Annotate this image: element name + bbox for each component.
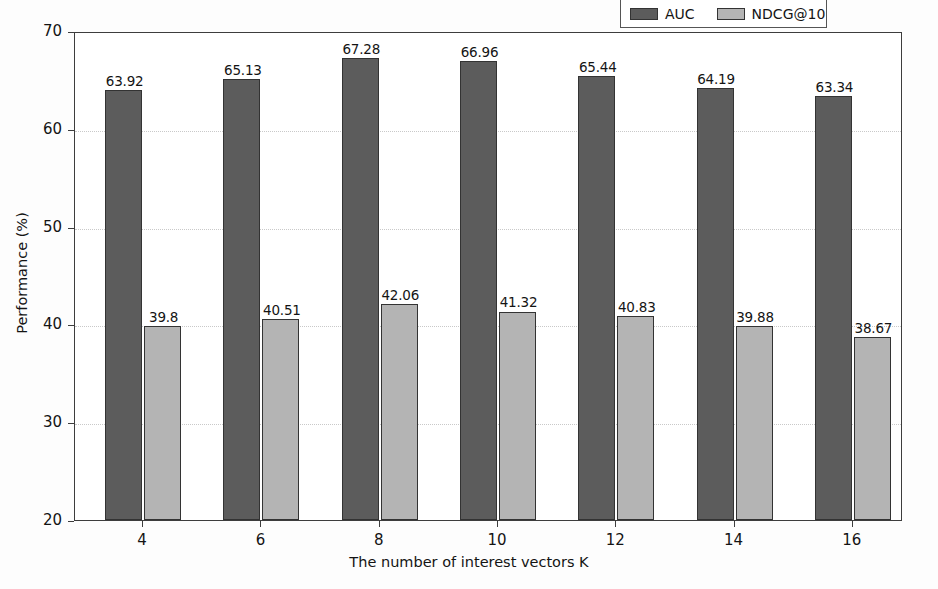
bar-ndcg-10-6 [262,319,299,520]
bar-ndcg-10-8 [381,304,418,520]
x-tick-label: 16 [822,531,882,549]
x-axis-title: The number of interest vectors K [0,554,938,570]
bar-ndcg-10-14 [736,326,773,520]
bar-value-label: 41.32 [497,294,540,310]
legend-label: NDCG@10 [752,6,826,22]
bar-value-label: 67.28 [340,41,383,57]
legend-swatch-icon [630,8,658,20]
bar-ndcg-10-10 [499,312,536,521]
y-tick-label: 70 [6,22,62,40]
bar-auc-8 [342,58,379,520]
legend-swatch-icon [717,8,745,20]
bar-value-label: 40.51 [260,302,303,318]
bar-auc-4 [105,90,142,520]
legend-label: AUC [665,6,695,22]
y-axis-title: Performance (%) [14,123,30,423]
x-tick-label: 10 [467,531,527,549]
bar-value-label: 42.06 [379,287,422,303]
x-tick-label: 14 [704,531,764,549]
bar-ndcg-10-4 [144,326,181,520]
x-tick-mark [260,521,261,527]
bar-value-label: 39.88 [734,309,777,325]
bar-value-label: 65.44 [576,59,619,75]
x-tick-label: 8 [349,531,409,549]
bar-value-label: 40.83 [615,299,658,315]
bar-value-label: 63.92 [103,73,146,89]
bar-auc-10 [460,61,497,520]
chart-legend: AUCNDCG@10 [620,0,827,28]
bar-auc-12 [578,76,615,520]
x-tick-mark [615,521,616,527]
bar-auc-16 [815,96,852,520]
x-tick-mark [379,521,380,527]
x-tick-label: 12 [585,531,645,549]
y-tick-mark [68,521,74,522]
bar-ndcg-10-16 [854,337,891,520]
bar-value-label: 39.8 [142,309,185,325]
x-tick-mark [734,521,735,527]
x-tick-mark [497,521,498,527]
legend-entry-ndcg-10[interactable]: NDCG@10 [717,6,826,22]
plot-area: 63.9239.865.1340.5167.2842.0666.9641.326… [74,32,902,521]
chart-figure: 203040506070 63.9239.865.1340.5167.2842.… [0,0,938,589]
x-tick-mark [852,521,853,527]
bar-ndcg-10-12 [617,316,654,520]
bar-value-label: 38.67 [852,320,895,336]
legend-entry-auc[interactable]: AUC [630,6,695,22]
bar-auc-14 [697,88,734,520]
bar-value-label: 65.13 [221,62,264,78]
x-tick-label: 4 [112,531,172,549]
bar-auc-6 [223,79,260,520]
bar-value-label: 66.96 [458,44,501,60]
x-tick-label: 6 [230,531,290,549]
bar-value-label: 63.34 [813,79,856,95]
y-tick-label: 20 [6,511,62,529]
bar-value-label: 64.19 [695,71,738,87]
x-tick-mark [142,521,143,527]
